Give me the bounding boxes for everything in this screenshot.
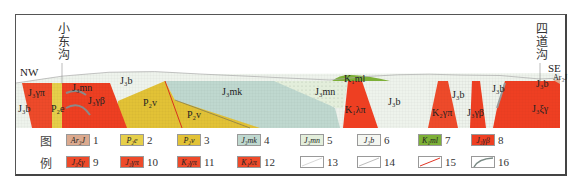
legend-swatch: J₃ξγ <box>66 156 90 168</box>
legend-item-8: J₃γβ 8 <box>471 133 504 147</box>
label-p2v-2: P₂v <box>187 110 201 120</box>
legend-number: 12 <box>264 156 275 168</box>
legend-number: 7 <box>445 134 451 146</box>
label-k1ml: K₁ml <box>344 74 365 84</box>
legend-item-2: P₂e 2 <box>120 133 153 147</box>
legend-number: 15 <box>445 156 456 168</box>
legend-swatch: K₂γπ <box>177 156 201 168</box>
legend-title-bottom: 例 <box>40 154 52 171</box>
direction-nw: NW <box>20 66 38 78</box>
label-ar3j: Ar₃J <box>553 74 567 82</box>
label-p2e: P₂e <box>51 104 65 114</box>
legend-swatch: P₂e <box>120 134 144 146</box>
legend-item-6: J₃b 6 <box>357 133 390 147</box>
legend-number: 9 <box>93 156 99 168</box>
legend-swatch: J₃b <box>357 134 381 146</box>
legend-item-12: K₁λπ 12 <box>237 155 275 169</box>
legend-item-3: P₂v 3 <box>177 133 210 147</box>
label-j3mn-mid: J₃mn <box>315 87 335 97</box>
legend-number: 8 <box>498 134 504 146</box>
boundary-line-icon <box>300 156 324 168</box>
legend-swatch: Ar₃J <box>66 134 90 146</box>
legend-number: 3 <box>204 134 210 146</box>
legend-number: 6 <box>384 134 390 146</box>
legend-swatch: J₃γβ <box>471 134 495 146</box>
legend-number: 14 <box>384 156 395 168</box>
legend-swatch: P₂v <box>177 134 201 146</box>
legend-number: 1 <box>93 134 99 146</box>
label-j3b-right: J₃b <box>536 79 548 89</box>
unconformity-line-icon <box>357 156 381 168</box>
label-j3xg: J₃ξγ <box>532 104 548 114</box>
label-j3b-top: J₃b <box>120 76 132 86</box>
legend-number: 10 <box>147 156 158 168</box>
legend-number: 5 <box>327 134 333 146</box>
legend-number: 11 <box>204 156 215 168</box>
legend-item-16: 16 <box>471 155 509 169</box>
legend-number: 4 <box>264 134 270 146</box>
label-p2v-1: P₂v <box>143 98 157 108</box>
legend-item-1: Ar₃J 1 <box>66 133 99 147</box>
ore-body-icon <box>471 156 495 168</box>
legend-title-top: 图 <box>40 132 52 149</box>
legend-swatch: K₁ml <box>418 134 442 146</box>
place-label-xiaodonggou: 小东沟 <box>56 22 68 61</box>
label-j3b-v2: J₃b <box>492 84 504 94</box>
legend-number: 13 <box>327 156 338 168</box>
legend-item-15: 15 <box>418 155 456 169</box>
legend-number: 16 <box>498 156 509 168</box>
label-k1lam: K₁λπ <box>345 105 366 115</box>
legend-swatch: J₃mn <box>300 134 324 146</box>
place-label-sidaogou: 四道沟 <box>534 22 546 61</box>
label-j3gb: J₃γβ <box>88 96 105 106</box>
label-j3mk: J₃mk <box>222 87 242 97</box>
legend-item-14: 14 <box>357 155 395 169</box>
label-j3mn-left: J₃mn <box>72 83 92 93</box>
label-j3gb-right: J₃γβ <box>467 108 484 118</box>
legend-item-5: J₃mn 5 <box>300 133 333 147</box>
label-j3b-mid: J₃b <box>388 97 400 107</box>
legend-number: 2 <box>147 134 153 146</box>
legend-item-9: J₃ξγ 9 <box>66 155 99 169</box>
legend-item-10: J₃γπ 10 <box>120 155 158 169</box>
legend-item-4: J₃mk 4 <box>237 133 270 147</box>
label-j3ypi: J₃γπ <box>28 88 45 98</box>
legend-item-7: K₁ml 7 <box>418 133 451 147</box>
legend-swatch: J₃γπ <box>120 156 144 168</box>
legend-swatch: J₃mk <box>237 134 261 146</box>
label-j3b-v1: J₃b <box>452 90 464 100</box>
legend-swatch: K₁λπ <box>237 156 261 168</box>
label-k2gpi: K₂γπ <box>432 108 452 118</box>
legend-item-13: 13 <box>300 155 338 169</box>
label-j3b-left: J₃b <box>18 104 30 114</box>
legend-item-11: K₂γπ 11 <box>177 155 215 169</box>
fault-line-icon <box>418 156 442 168</box>
